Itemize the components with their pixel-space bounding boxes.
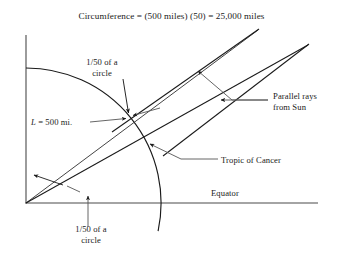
leader-tropic-of-cancer <box>150 144 218 159</box>
eratosthenes-circumference-diagram: Circumference = (500 miles) (50) = 25,00… <box>0 0 343 258</box>
diagram-canvas <box>0 0 343 258</box>
leader-vertex-angle <box>34 175 63 185</box>
label-lower-fraction-line2: circle <box>55 235 127 246</box>
label-tropic-of-cancer: Tropic of Cancer <box>221 155 281 166</box>
label-parallel-rays: Parallel rays from Sun <box>273 91 339 112</box>
leader-parallel-ray-upper <box>198 71 268 100</box>
leader-upper-fraction <box>123 79 129 113</box>
label-lower-fraction-line1: 1/50 of a <box>55 224 127 235</box>
label-upper-fraction-line1: 1/50 of a <box>66 57 138 68</box>
leader-vertex-angle-tail <box>67 186 80 192</box>
label-arc-length: L = 500 mi. <box>31 117 72 128</box>
earth-arc <box>26 68 161 231</box>
figure-title: Circumference = (500 miles) (50) = 25,00… <box>0 11 343 22</box>
label-lower-fraction: 1/50 of a circle <box>55 224 127 245</box>
label-parallel-rays-line1: Parallel rays <box>273 91 339 102</box>
label-arc-length-value: = 500 mi. <box>36 117 72 127</box>
sun-ray-upper <box>112 29 259 132</box>
label-upper-fraction: 1/50 of a circle <box>66 57 138 78</box>
label-equator: Equator <box>211 188 239 199</box>
label-parallel-rays-line2: from Sun <box>273 102 339 113</box>
label-upper-fraction-line2: circle <box>66 68 138 79</box>
leader-length <box>90 119 126 123</box>
leader-arc-endpoint <box>133 108 160 116</box>
